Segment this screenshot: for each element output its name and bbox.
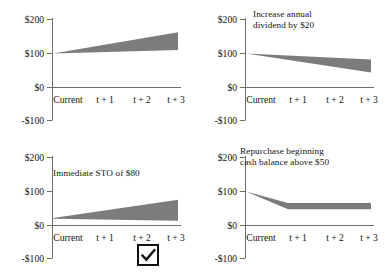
y-label-neg100: -$100 — [22, 115, 45, 126]
panel-grid: $200 $100 $0 -$100 Current t + 1 t + 2 t… — [0, 0, 385, 276]
panel-baseline-plot: $200 $100 $0 -$100 Current t + 1 t + 2 t… — [0, 0, 193, 138]
x-label-current: Current — [246, 94, 276, 105]
chart-panel-increase-dividend[interactable]: $200 $100 $0 -$100 Current t + 1 t + 2 t… — [193, 0, 385, 138]
y-label-100: $100 — [218, 48, 237, 59]
x-label-t1: t + 1 — [96, 232, 114, 243]
x-label-t2: t + 2 — [326, 94, 344, 105]
x-label-t1: t + 1 — [289, 94, 307, 105]
y-label-0: $0 — [227, 82, 237, 93]
x-label-t3: t + 3 — [167, 232, 185, 243]
y-label-200: $200 — [25, 152, 44, 163]
scenario-checkbox-checked[interactable] — [137, 244, 159, 266]
y-label-200: $200 — [218, 14, 237, 25]
x-label-t2: t + 2 — [133, 232, 151, 243]
panel-increase-dividend-caption: Increase annualdividend by $20 — [253, 9, 314, 31]
y-label-200: $200 — [25, 14, 44, 25]
x-label-t2: t + 2 — [326, 232, 344, 243]
chart-panel-baseline[interactable]: $200 $100 $0 -$100 Current t + 1 t + 2 t… — [0, 0, 193, 138]
y-label-neg100: -$100 — [215, 253, 238, 264]
x-label-t2: t + 2 — [133, 94, 151, 105]
checkmark-icon — [140, 247, 157, 264]
y-label-0: $0 — [227, 220, 237, 231]
panel-repurchase-cash-caption: Repurchase beginningcash balance above $… — [240, 146, 329, 168]
y-label-100: $100 — [218, 186, 237, 197]
uncertainty-band — [246, 192, 371, 210]
x-label-t1: t + 1 — [289, 232, 307, 243]
uncertainty-band — [246, 54, 371, 73]
x-label-t3: t + 3 — [360, 232, 378, 243]
uncertainty-band — [53, 32, 178, 53]
chart-panel-immediate-sto[interactable]: $200 $100 $0 -$100 Current t + 1 t + 2 t… — [0, 138, 193, 276]
y-label-200: $200 — [218, 152, 237, 163]
x-label-current: Current — [246, 232, 276, 243]
x-label-current: Current — [53, 232, 83, 243]
y-label-0: $0 — [34, 220, 44, 231]
x-label-t3: t + 3 — [360, 94, 378, 105]
y-label-neg100: -$100 — [215, 115, 238, 126]
x-label-current: Current — [53, 94, 83, 105]
y-label-0: $0 — [34, 82, 44, 93]
y-label-100: $100 — [25, 186, 44, 197]
panel-immediate-sto-caption: Immediate STO of $80 — [53, 168, 140, 179]
x-label-t1: t + 1 — [96, 94, 114, 105]
x-label-t3: t + 3 — [167, 94, 185, 105]
panel-immediate-sto-plot: $200 $100 $0 -$100 Current t + 1 t + 2 t… — [0, 138, 193, 276]
chart-panel-repurchase-cash[interactable]: $200 $100 $0 -$100 Current t + 1 t + 2 t… — [193, 138, 385, 276]
uncertainty-band — [53, 200, 178, 221]
y-label-neg100: -$100 — [22, 253, 45, 264]
y-label-100: $100 — [25, 48, 44, 59]
